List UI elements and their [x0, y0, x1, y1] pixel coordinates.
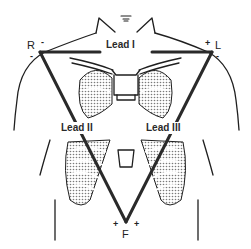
neck-right	[137, 18, 155, 33]
right-arm-top-sign: -	[41, 38, 44, 47]
right-arm-electrode-label: R	[27, 40, 35, 51]
foot-left-sign: +	[113, 220, 118, 229]
lead-ii-label: Lead II	[59, 122, 95, 134]
right-arm-bottom-sign: -	[30, 52, 33, 61]
torso-illustration	[0, 0, 251, 249]
lead-iii-label: Lead III	[144, 122, 182, 134]
left-arm-top-sign: +	[205, 39, 210, 48]
right-upper-rib-area	[79, 70, 112, 118]
foot-right-sign: +	[134, 220, 139, 229]
left-upper-rib-area	[139, 70, 172, 118]
left-arm-bottom-sign: -	[216, 52, 219, 61]
foot-electrode-label: F	[122, 229, 129, 240]
neck-left	[96, 18, 115, 33]
left-arm-electrode-label: L	[215, 40, 221, 51]
lead-i-label: Lead I	[104, 39, 137, 51]
einthoven-triangle	[40, 52, 212, 222]
einthoven-diagram: Lead I Lead II Lead III R - - + L - + + …	[0, 0, 251, 249]
